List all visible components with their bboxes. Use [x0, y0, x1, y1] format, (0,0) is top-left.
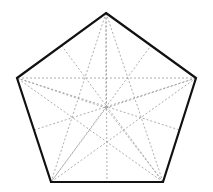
pentagon-figure — [0, 0, 213, 192]
figure-background — [0, 0, 213, 192]
